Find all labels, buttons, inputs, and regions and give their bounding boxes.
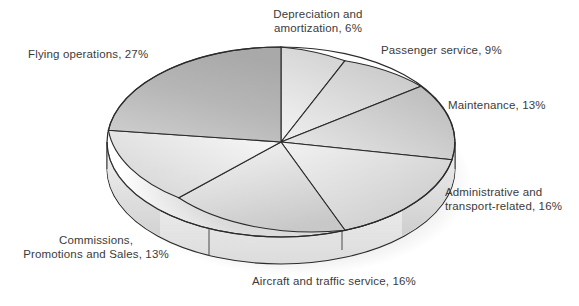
pie-label-administrative-line1: Administrative and	[445, 186, 579, 200]
pie-label-flying: Flying operations, 27%	[28, 48, 188, 62]
pie-label-commissions-line2: Promotions and Sales, 13%	[6, 248, 186, 262]
pie-chart-figure: Depreciation and amortization, 6% Passen…	[0, 0, 579, 306]
pie-label-maintenance: Maintenance, 13%	[448, 99, 573, 113]
pie-label-passenger-line1: Passenger service, 9%	[381, 44, 531, 58]
pie-label-commissions: Commissions, Promotions and Sales, 13%	[6, 234, 186, 261]
pie-label-aircraft: Aircraft and traffic service, 16%	[224, 275, 444, 289]
pie-label-depreciation-line1: Depreciation and	[253, 8, 383, 22]
pie-label-administrative: Administrative and transport-related, 16…	[445, 186, 579, 213]
pie-label-aircraft-line1: Aircraft and traffic service, 16%	[224, 275, 444, 289]
pie-label-commissions-line1: Commissions,	[6, 234, 186, 248]
pie-label-flying-line1: Flying operations, 27%	[28, 48, 188, 62]
pie-label-administrative-line2: transport-related, 16%	[445, 200, 579, 214]
pie-label-maintenance-line1: Maintenance, 13%	[448, 99, 573, 113]
pie-label-passenger: Passenger service, 9%	[381, 44, 531, 58]
pie-label-depreciation-line2: amortization, 6%	[253, 22, 383, 36]
pie-label-depreciation: Depreciation and amortization, 6%	[253, 8, 383, 35]
